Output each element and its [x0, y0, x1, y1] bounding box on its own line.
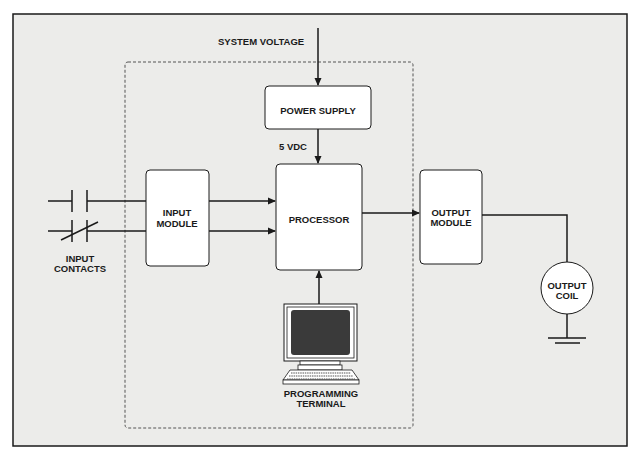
plc-block-diagram: SYSTEM VOLTAGE POWER SUPPLY 5 VDC PROCES…: [0, 0, 640, 458]
computer-terminal-icon: [283, 304, 359, 384]
output-module-label-2: MODULE: [430, 217, 471, 228]
power-supply-label: POWER SUPPLY: [280, 105, 356, 116]
system-voltage-label: SYSTEM VOLTAGE: [218, 36, 304, 47]
output-coil-label-2: COIL: [556, 290, 579, 301]
input-contacts-label-2: CONTACTS: [54, 263, 106, 274]
processor-label: PROCESSOR: [289, 214, 350, 225]
vdc-label: 5 VDC: [279, 141, 307, 152]
terminal-label-2: TERMINAL: [296, 398, 345, 409]
input-module-label-2: MODULE: [156, 218, 197, 229]
input-module-label-1: INPUT: [163, 207, 192, 218]
